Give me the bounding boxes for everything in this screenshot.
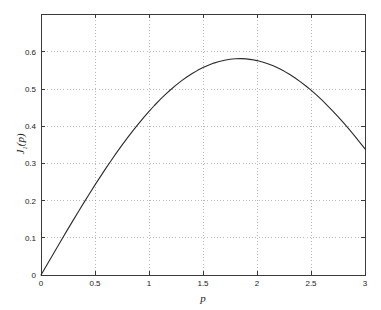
- x-tick-label: 1: [147, 279, 152, 288]
- vertical-gridlines: [95, 14, 311, 275]
- x-axis-title: p: [199, 292, 206, 304]
- x-tick-label: 0: [39, 279, 44, 288]
- x-tick-label: 3: [363, 279, 368, 288]
- line-chart: 00.511.522.53 00.10.20.30.40.50.6 p J1(p…: [0, 0, 381, 310]
- y-tick-label: 0.1: [25, 234, 37, 243]
- x-tick-label: 2.5: [305, 279, 317, 288]
- y-tick-label: 0.2: [25, 197, 37, 206]
- x-tick-label: 2: [255, 279, 260, 288]
- y-tick-label: 0.4: [25, 122, 37, 131]
- figure-canvas: 00.511.522.53 00.10.20.30.40.50.6 p J1(p…: [0, 0, 381, 310]
- x-axis-tick-labels: 00.511.522.53: [39, 279, 368, 288]
- x-tick-label: 0.5: [89, 279, 101, 288]
- y-tick-label: 0.6: [25, 48, 37, 57]
- y-axis-tick-labels: 00.10.20.30.40.50.6: [25, 48, 37, 280]
- y-axis-title-arg: (p): [14, 133, 27, 146]
- x-tick-label: 1.5: [197, 279, 209, 288]
- y-tick-label: 0: [32, 271, 37, 280]
- y-tick-label: 0.5: [25, 85, 37, 94]
- y-tick-label: 0.3: [25, 159, 37, 168]
- y-axis-title: J1(p): [14, 133, 29, 155]
- y-axis-title-text: J1(p): [14, 133, 29, 155]
